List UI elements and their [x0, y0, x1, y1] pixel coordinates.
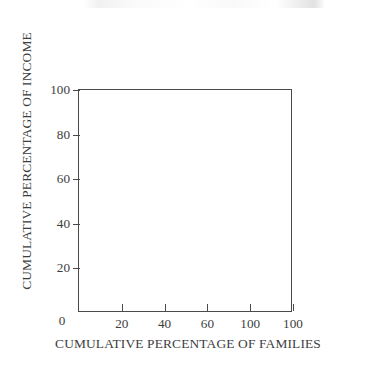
x-axis-title: CUMULATIVE PERCENTAGE OF FAMILIES	[0, 336, 376, 352]
y-tick-mark	[73, 135, 80, 136]
y-tick-mark	[73, 90, 80, 91]
y-tick-label: 20	[57, 260, 70, 276]
y-axis-title: CUMULATIVE PERCENTAGE OF INCOME	[14, 6, 40, 316]
plot-area	[79, 90, 291, 311]
y-tick-label: 40	[57, 216, 70, 232]
y-tick-mark	[73, 179, 80, 180]
axis-origin-label: 0	[59, 313, 66, 329]
x-tick-label: 40	[158, 316, 171, 332]
y-tick-mark	[73, 224, 80, 225]
x-tick-label: 100	[240, 316, 260, 332]
y-tick-label: 100	[50, 82, 70, 98]
x-tick-label: 20	[115, 316, 128, 332]
y-tick-mark	[73, 268, 80, 269]
chart-figure: CUMULATIVE PERCENTAGE OF INCOME 20406080…	[0, 0, 376, 372]
y-tick-label: 60	[57, 171, 70, 187]
scan-artifact	[84, 0, 324, 8]
x-tick-label: 60	[201, 316, 214, 332]
plot-frame: 20406080100 204060100100	[78, 89, 292, 312]
x-tick-mark	[165, 304, 166, 311]
y-tick-label: 80	[57, 127, 70, 143]
x-tick-label: 100	[283, 316, 303, 332]
x-tick-mark	[122, 304, 123, 311]
x-tick-mark	[207, 304, 208, 311]
x-tick-mark	[250, 304, 251, 311]
x-tick-mark	[293, 304, 294, 311]
